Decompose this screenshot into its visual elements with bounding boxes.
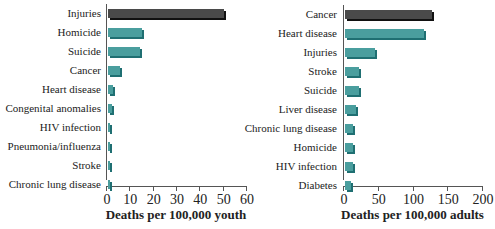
x-tick-label: 40 [193,192,207,208]
x-axis-title: Deaths per 100,000 adults [341,207,484,223]
x-tick-label: 60 [240,192,254,208]
x-tick-label: 150 [438,192,459,208]
x-tick-label: 0 [104,192,111,208]
bar-face [108,180,110,189]
category-label: Diabetes [299,179,337,191]
bar-suicide [108,47,142,56]
category-label: Stroke [308,65,337,77]
bar-face [108,104,112,113]
bar-homicide [345,143,355,152]
category-label: HIV infection [40,121,101,133]
bar-suicide [345,86,361,95]
x-tick-label: 10 [123,192,137,208]
bar-face [345,143,353,152]
bar-diabetes [345,181,353,190]
x-tick [223,186,224,191]
bar-chronic-lung-disease [108,180,112,189]
x-tick-label: 50 [372,192,386,208]
x-tick [106,186,107,191]
bar-cancer [345,10,434,19]
x-tick [199,186,200,191]
category-label: Cancer [70,64,101,76]
bar-stroke [108,161,112,170]
x-tick-label: 50 [217,192,231,208]
bar-face [345,181,351,190]
x-tick [129,186,130,191]
x-tick [176,186,177,191]
category-label: Stroke [72,159,101,171]
category-label: Cancer [306,8,337,20]
category-label: HIV infection [276,160,337,172]
bar-hiv-infection [345,162,355,171]
bar-stroke [345,67,361,76]
category-label: Congenital anomalies [5,102,101,114]
x-tick-label: 20 [147,192,161,208]
bar-pneumonia-influenza [108,142,112,151]
bar-face [108,85,113,94]
category-label: Homicide [294,141,337,153]
x-tick [153,186,154,191]
bar-shadow [110,125,112,134]
category-label: Liver disease [279,103,337,115]
x-tick-label: 100 [403,192,424,208]
bar-face [345,162,353,171]
x-tick [413,186,414,191]
x-tick [343,186,344,191]
x-tick [447,186,448,191]
bar-face [108,161,110,170]
bar-face [108,142,110,151]
bar-congenital-anomalies [108,104,114,113]
bar-face [345,10,432,19]
bar-liver-disease [345,105,358,114]
bar-face [345,29,424,38]
bar-face [345,124,353,133]
category-label: Suicide [304,84,337,96]
y-axis-line [343,5,344,180]
bar-shadow [110,163,112,172]
bar-shadow [110,144,112,153]
bar-face [108,123,110,132]
bar-face [108,66,120,75]
bar-face [108,9,224,18]
x-tick [378,186,379,191]
category-label: Injuries [303,46,337,58]
category-label: Heart disease [42,83,101,95]
x-tick [246,186,247,191]
bar-heart-disease [345,29,426,38]
bar-heart-disease [108,85,115,94]
x-tick-label: 0 [341,192,348,208]
x-tick [482,186,483,191]
bar-face [345,86,359,95]
category-label: Suicide [68,45,101,57]
category-label: Homicide [58,26,101,38]
y-axis-line [106,4,107,180]
bar-injuries [345,48,377,57]
bar-hiv-infection [108,123,112,132]
x-tick-label: 200 [473,192,494,208]
category-label: Chronic lung disease [9,178,101,190]
category-label: Injuries [67,7,101,19]
bar-homicide [108,28,144,37]
category-label: Heart disease [278,27,337,39]
bar-cancer [108,66,122,75]
bar-face [345,67,359,76]
bar-chronic-lung-disease [345,124,355,133]
category-label: Pneumonia/influenza [8,140,101,152]
bar-face [108,28,142,37]
x-tick-label: 30 [170,192,184,208]
bar-face [108,47,140,56]
bar-shadow [110,182,112,191]
bar-face [345,105,356,114]
bar-face [345,48,375,57]
bar-injuries [108,9,226,18]
x-axis-title: Deaths per 100,000 youth [106,207,247,223]
category-label: Chronic lung disease [245,122,337,134]
